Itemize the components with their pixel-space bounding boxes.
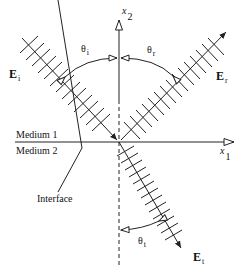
incident-wave bbox=[20, 36, 117, 140]
reflected-angle-label: θr bbox=[147, 45, 155, 55]
x1-axis-label: x1 bbox=[220, 146, 230, 156]
angle-arc-transmitted bbox=[121, 221, 159, 230]
medium-2-label: Medium 2 bbox=[16, 146, 57, 156]
transmitted-field-label: Et bbox=[193, 251, 204, 263]
angle-arc-reflected bbox=[121, 58, 173, 76]
reflected-wavefronts bbox=[124, 38, 224, 139]
reflected-wave bbox=[121, 32, 226, 140]
transmitted-wave bbox=[117, 142, 182, 248]
interface-label: Interface bbox=[37, 194, 73, 204]
diagram-canvas: x2 x1 Ei Er Et θi θr θt Medium 1 Medium … bbox=[0, 0, 248, 269]
interface-pointer bbox=[58, 0, 82, 148]
transmitted-wavefronts bbox=[117, 146, 182, 240]
angle-arc-incident bbox=[65, 58, 117, 77]
transmitted-angle-label: θt bbox=[138, 236, 146, 246]
interface-leader-line bbox=[58, 148, 82, 192]
incident-field-label: Ei bbox=[9, 68, 20, 80]
medium-1-label: Medium 1 bbox=[16, 130, 57, 140]
reflected-field-label: Er bbox=[216, 70, 228, 82]
x2-axis-label: x2 bbox=[122, 6, 132, 16]
incident-angle-label: θi bbox=[81, 44, 89, 54]
